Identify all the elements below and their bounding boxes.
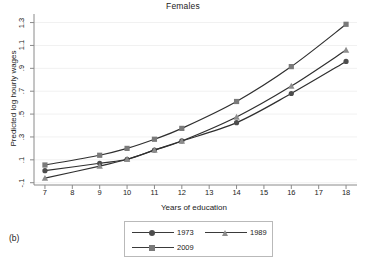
circle-marker	[234, 120, 239, 125]
legend-line-swatch	[205, 228, 247, 237]
series-line-1973	[45, 61, 346, 170]
triangle-marker	[233, 114, 239, 120]
legend-item-1989: 1989	[205, 228, 272, 237]
legend-label: 2009	[177, 243, 199, 252]
circle-marker	[42, 168, 47, 173]
square-marker	[179, 126, 184, 131]
legend-label: 1973	[177, 228, 199, 237]
circle-marker	[149, 230, 155, 236]
triangle-marker	[222, 230, 228, 236]
square-marker	[152, 137, 157, 142]
triangle-marker	[288, 83, 294, 89]
legend-item-1973: 1973	[132, 228, 199, 237]
square-marker	[343, 22, 348, 27]
square-marker	[124, 146, 129, 151]
chart-legend: 1973 1989 2009	[124, 221, 273, 257]
series-1973	[42, 59, 348, 173]
circle-marker	[289, 91, 294, 96]
square-marker	[97, 153, 102, 158]
legend-line-swatch	[132, 243, 174, 252]
legend-line-swatch	[132, 228, 174, 237]
square-marker	[149, 245, 155, 251]
square-marker	[42, 162, 47, 167]
circle-marker	[343, 59, 348, 64]
chart-figure: Females Predicted log hourly wages -.1.1…	[0, 0, 366, 267]
panel-label: (b)	[9, 233, 19, 243]
x-axis-label: Years of education	[34, 203, 354, 212]
square-marker	[289, 64, 294, 69]
legend-label: 1989	[250, 228, 272, 237]
triangle-marker	[343, 47, 349, 53]
series-2009	[42, 22, 348, 168]
legend-item-2009: 2009	[132, 243, 199, 252]
square-marker	[234, 99, 239, 104]
